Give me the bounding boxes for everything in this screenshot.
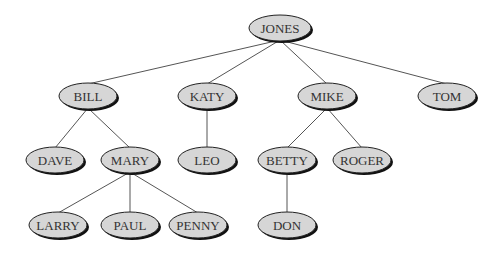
node-label: JONES	[260, 21, 299, 36]
node-mike: MIKE	[298, 83, 358, 111]
node-betty: BETTY	[258, 147, 318, 175]
node-label: PENNY	[176, 218, 220, 233]
node-paul: PAUL	[101, 212, 161, 240]
node-label: PAUL	[114, 218, 147, 233]
node-roger: ROGER	[333, 147, 393, 175]
node-jones: JONES	[249, 15, 313, 43]
node-label: TOM	[433, 89, 462, 104]
edge-jones-katy	[207, 40, 280, 84]
node-larry: LARRY	[29, 212, 89, 240]
node-label: KATY	[190, 89, 225, 104]
edge-mary-larry	[58, 172, 130, 213]
edges-layer	[55, 40, 447, 213]
node-don: DON	[258, 212, 318, 240]
node-dave: DAVE	[26, 147, 86, 175]
edge-mary-penny	[130, 172, 198, 213]
node-label: MARY	[111, 153, 150, 168]
edge-jones-tom	[280, 40, 447, 84]
node-leo: LEO	[178, 147, 238, 175]
node-label: DON	[273, 218, 302, 233]
tree-diagram: JONESBILLKATYMIKETOMDAVEMARYLEOBETTYROGE…	[0, 0, 500, 256]
node-tom: TOM	[418, 83, 478, 111]
node-label: LARRY	[36, 218, 80, 233]
edge-mike-roger	[327, 108, 362, 148]
node-label: DAVE	[38, 153, 72, 168]
node-label: MIKE	[310, 89, 343, 104]
nodes-layer: JONESBILLKATYMIKETOMDAVEMARYLEOBETTYROGE…	[26, 15, 478, 240]
edge-mike-betty	[287, 108, 327, 148]
node-katy: KATY	[178, 83, 238, 111]
edge-bill-dave	[55, 108, 88, 148]
node-label: ROGER	[340, 153, 384, 168]
node-label: LEO	[194, 153, 219, 168]
node-label: BILL	[74, 89, 103, 104]
node-penny: PENNY	[169, 212, 229, 240]
node-bill: BILL	[59, 83, 119, 111]
node-label: BETTY	[266, 153, 308, 168]
edge-bill-mary	[88, 108, 130, 148]
node-mary: MARY	[101, 147, 161, 175]
edge-jones-bill	[88, 40, 280, 84]
